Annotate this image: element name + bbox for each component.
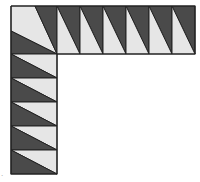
figure-mark: . <box>1 170 3 178</box>
quilt-diagram <box>0 0 200 182</box>
